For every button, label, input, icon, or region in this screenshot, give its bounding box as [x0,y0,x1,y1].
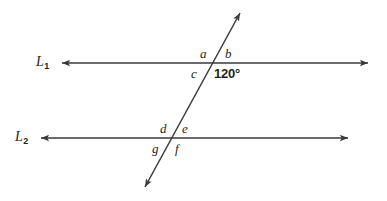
angle-label-b: b [225,47,232,60]
angle-label-c: c [191,67,197,80]
angle-label-g: g [152,142,159,155]
angle-label-a: a [200,47,207,60]
geometry-canvas [0,0,387,201]
line-label-l1-letter: L [36,54,44,69]
angle-label-f: f [175,142,179,155]
line-label-l1: L1 [36,55,49,69]
angle-measure-120: 120° [214,67,240,80]
angle-label-d: d [160,122,167,135]
angle-label-e: e [182,122,188,135]
line-transversal [145,13,240,187]
line-label-l2: L2 [15,130,28,144]
geometry-figure: L1 L2 a b c 120° d e g f [0,0,387,201]
line-label-l2-subscript: 2 [23,136,28,146]
line-label-l1-subscript: 1 [44,61,49,71]
line-label-l2-letter: L [15,129,23,144]
